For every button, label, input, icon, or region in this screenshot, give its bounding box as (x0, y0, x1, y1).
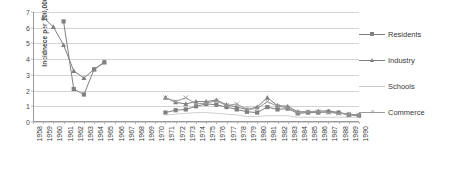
x-tick-label: 1971 (168, 126, 175, 142)
y-tick-label: 0 (26, 119, 30, 126)
x-tick-label: 1963 (87, 126, 94, 142)
y-tick-label: 1 (26, 103, 30, 110)
x-tick-label: 1974 (199, 126, 206, 142)
square-marker-icon (370, 32, 374, 36)
triangle-marker-icon (370, 58, 374, 62)
x-tick-label: 1961 (67, 126, 74, 142)
x-tick-label: 1958 (36, 126, 43, 142)
x-tick-mark (186, 122, 187, 124)
x-tick-mark (318, 122, 319, 124)
legend-item-commerce[interactable]: ✕Commerce (359, 107, 425, 117)
series-commerce (163, 95, 361, 117)
x-tick-label: 1976 (219, 126, 226, 142)
x-marker-icon: ✕ (370, 109, 375, 115)
legend-label: Residents (385, 30, 421, 39)
legend: ResidentsIndustrySchools✕Commerce (359, 12, 453, 122)
y-tick-label: 7 (26, 9, 30, 16)
x-tick-mark (155, 122, 156, 124)
x-tick-label: 1972 (179, 126, 186, 142)
x-tick-label: 1987 (331, 126, 338, 142)
x-tick-mark (104, 122, 105, 124)
y-tick-label: 4 (26, 56, 30, 63)
x-tick-label: 1962 (77, 126, 84, 142)
x-tick-label: 1965 (107, 126, 114, 142)
x-tick-label: 1973 (189, 126, 196, 142)
legend-item-industry[interactable]: Industry (359, 55, 415, 65)
x-tick-mark (278, 122, 279, 124)
x-tick-label: 1986 (321, 126, 328, 142)
x-tick-label: 1985 (311, 126, 318, 142)
x-tick-label: 1981 (270, 126, 277, 142)
x-tick-mark (339, 122, 340, 124)
legend-line (359, 86, 385, 87)
x-tick-mark (288, 122, 289, 124)
x-tick-label: 1978 (240, 126, 247, 142)
legend-item-residents[interactable]: Residents (359, 29, 421, 39)
x-tick-label: 1969 (148, 126, 155, 142)
x-tick-label: 1968 (138, 126, 145, 142)
x-tick-mark (247, 122, 248, 124)
x-tick-mark (125, 122, 126, 124)
x-tick-label: 1966 (118, 126, 125, 142)
x-tick-mark (328, 122, 329, 124)
x-tick-mark (176, 122, 177, 124)
y-tick-label: 2 (26, 87, 30, 94)
legend-key-commerce: ✕ (359, 107, 385, 117)
legend-label: Commerce (385, 108, 425, 117)
x-tick-mark (257, 122, 258, 124)
x-tick-label: 1989 (352, 126, 359, 142)
x-tick-mark (267, 122, 268, 124)
plot-area: Incidnece per 100,000 01234567 195819591… (33, 12, 359, 122)
x-tick-label: 1967 (128, 126, 135, 142)
x-tick-mark (43, 122, 44, 124)
x-tick-mark (298, 122, 299, 124)
legend-label: Schools (385, 82, 415, 91)
x-tick-mark (74, 122, 75, 124)
x-tick-mark (84, 122, 85, 124)
x-tick-mark (359, 122, 360, 124)
series-residents (61, 19, 361, 117)
y-tick-label: 5 (26, 40, 30, 47)
x-tick-label: 1982 (281, 126, 288, 142)
x-tick-label: 1970 (158, 126, 165, 142)
x-tick-mark (64, 122, 65, 124)
x-tick-mark (145, 122, 146, 124)
legend-label: Industry (385, 56, 415, 65)
x-tick-mark (115, 122, 116, 124)
x-tick-label: 1979 (250, 126, 257, 142)
x-tick-mark (227, 122, 228, 124)
x-tick-label: 1983 (291, 126, 298, 142)
x-tick-label: 1960 (56, 126, 63, 142)
x-tick-label: 1988 (342, 126, 349, 142)
x-tick-label: 1975 (209, 126, 216, 142)
x-tick-label: 1959 (46, 126, 53, 142)
x-tick-mark (308, 122, 309, 124)
x-tick-label: 1977 (230, 126, 237, 142)
x-tick-mark (135, 122, 136, 124)
chart-root: Incidnece per 100,000 01234567 195819591… (0, 0, 453, 180)
legend-key-residents (359, 29, 385, 39)
legend-item-schools[interactable]: Schools (359, 81, 415, 91)
x-tick-label: 1984 (301, 126, 308, 142)
x-tick-mark (94, 122, 95, 124)
x-tick-mark (53, 122, 54, 124)
x-tick-mark (237, 122, 238, 124)
legend-key-schools (359, 81, 385, 91)
y-tick-label: 3 (26, 71, 30, 78)
x-tick-label: 1990 (362, 126, 369, 142)
x-tick-mark (206, 122, 207, 124)
legend-key-industry (359, 55, 385, 65)
x-tick-mark (349, 122, 350, 124)
x-tick-mark (165, 122, 166, 124)
x-tick-mark (216, 122, 217, 124)
x-tick-mark (196, 122, 197, 124)
series-layer (33, 12, 359, 122)
series-industry (41, 15, 362, 117)
x-tick-label: 1964 (97, 126, 104, 142)
y-tick-label: 6 (26, 24, 30, 31)
x-axis-ticks: 1958195919601961196219631964196519661967… (33, 122, 359, 178)
x-tick-label: 1980 (260, 126, 267, 142)
x-tick-mark (33, 122, 34, 124)
